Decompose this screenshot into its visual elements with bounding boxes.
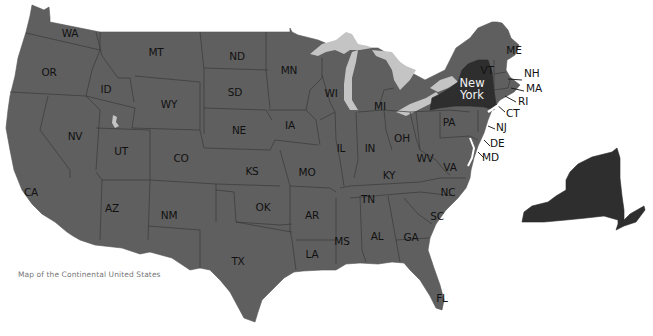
new-york-inset [522, 148, 645, 230]
new-york-label-line2: York [459, 89, 484, 101]
state-label-ms: MS [334, 236, 349, 247]
callout-label-de: DE [490, 138, 505, 149]
callout-label-md: MD [482, 152, 499, 163]
state-label-ca: CA [24, 187, 38, 198]
state-label-me: ME [506, 45, 521, 56]
state-label-tn: TN [361, 194, 375, 205]
state-label-nc: NC [441, 187, 456, 198]
state-label-il: IL [337, 143, 346, 154]
state-label-wy: WY [161, 99, 177, 110]
us-map [0, 0, 653, 336]
state-label-ok: OK [256, 202, 271, 213]
state-label-or: OR [41, 67, 56, 78]
state-label-ga: GA [404, 232, 419, 243]
state-label-ia: IA [285, 120, 295, 131]
state-label-co: CO [173, 153, 188, 164]
state-label-vt: VT [480, 65, 493, 76]
state-label-ks: KS [245, 166, 258, 177]
callout-label-nj: NJ [496, 122, 507, 133]
state-label-al: AL [371, 231, 384, 242]
state-label-la: LA [306, 249, 319, 260]
state-label-wa: WA [62, 28, 79, 39]
state-label-wv: WV [416, 153, 433, 164]
state-label-nm: NM [161, 210, 178, 221]
state-label-in: IN [365, 143, 376, 154]
state-label-va: VA [443, 162, 456, 173]
state-label-id: ID [101, 84, 112, 95]
callout-label-nh: NH [524, 68, 540, 79]
callout-label-ri: RI [518, 96, 528, 107]
map-caption: Map of the Continental United States [18, 270, 161, 279]
callout-label-ct: CT [506, 108, 520, 119]
state-label-mo: MO [299, 167, 316, 178]
state-label-ky: KY [383, 170, 396, 181]
state-label-nd: ND [229, 51, 245, 62]
state-label-sd: SD [228, 87, 242, 98]
new-york-label: New York [459, 77, 484, 101]
state-label-mi: MI [374, 101, 386, 112]
state-label-mt: MT [148, 47, 163, 58]
state-label-sc: SC [430, 211, 444, 222]
state-label-fl: FL [436, 293, 448, 304]
state-label-wi: WI [324, 88, 337, 99]
state-label-az: AZ [105, 203, 119, 214]
state-label-ut: UT [114, 146, 128, 157]
state-label-ar: AR [305, 210, 319, 221]
state-label-tx: TX [231, 256, 244, 267]
state-label-pa: PA [443, 117, 455, 128]
state-label-mn: MN [281, 65, 298, 76]
state-label-oh: OH [394, 133, 410, 144]
callout-label-ma: MA [526, 83, 542, 94]
state-label-nv: NV [68, 131, 83, 142]
state-label-ne: NE [232, 125, 246, 136]
